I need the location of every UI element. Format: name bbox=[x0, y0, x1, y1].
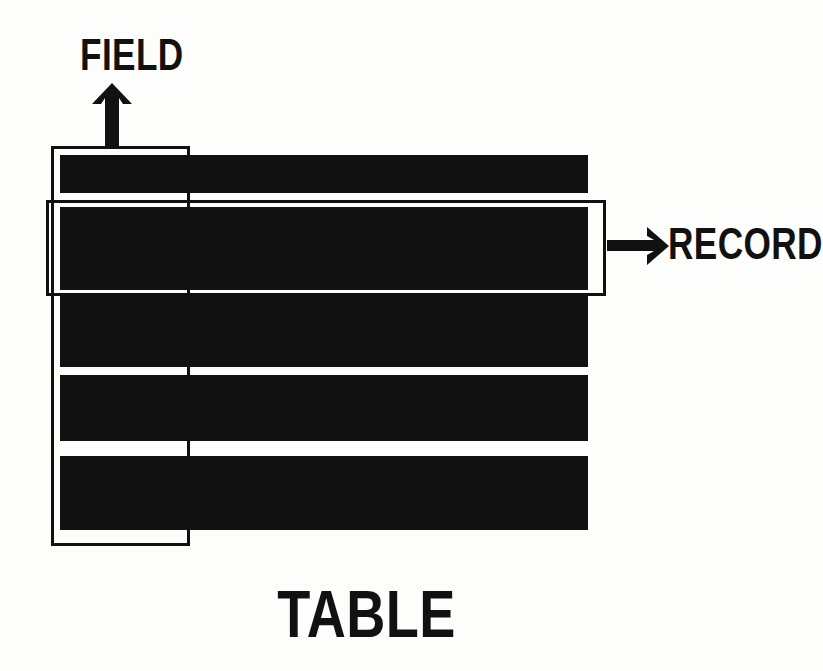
table-cell bbox=[185, 155, 311, 193]
table-label: TABLE bbox=[277, 581, 455, 647]
table-cell bbox=[185, 296, 311, 367]
table-cell bbox=[435, 155, 588, 193]
arrow-right-icon bbox=[607, 227, 669, 265]
record-row-outline bbox=[46, 200, 606, 296]
arrow-up-icon bbox=[92, 83, 132, 149]
table-cell bbox=[435, 375, 588, 441]
field-label: FIELD bbox=[80, 33, 184, 77]
diagram-canvas: FIELD RECORD TABLE bbox=[0, 0, 823, 671]
record-label: RECORD bbox=[668, 222, 823, 266]
table-cell bbox=[435, 456, 588, 530]
table-cell bbox=[310, 155, 436, 193]
table-cell bbox=[310, 296, 436, 367]
table-cell bbox=[310, 456, 436, 530]
table-cell bbox=[185, 375, 311, 441]
table-cell bbox=[435, 296, 588, 367]
table-cell bbox=[310, 375, 436, 441]
table-cell bbox=[185, 456, 311, 530]
